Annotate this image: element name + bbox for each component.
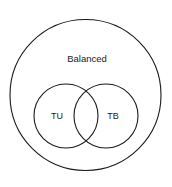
venn-diagram-svg: Balanced TU TB bbox=[0, 0, 172, 187]
label-tb: TB bbox=[107, 111, 119, 121]
label-tu: TU bbox=[51, 111, 63, 121]
label-balanced: Balanced bbox=[67, 53, 107, 64]
venn-diagram-canvas: Balanced TU TB bbox=[0, 0, 172, 187]
diagram-background bbox=[0, 0, 172, 187]
